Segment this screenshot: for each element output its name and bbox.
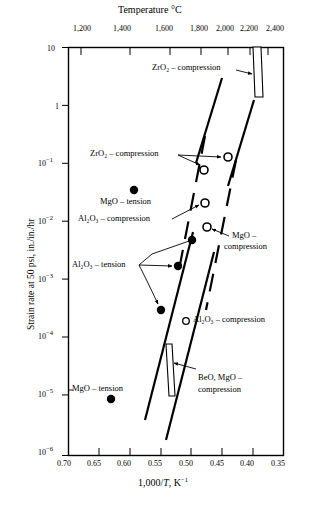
creep-strain-rate-chart: Temperature °C 1,200 1,400 1,600 1,800 2…	[0, 0, 313, 509]
data-point-mgo-tension-2	[107, 395, 115, 403]
data-point-al2o3-tension-3	[157, 306, 165, 314]
zro2-band-stroke-left	[196, 78, 222, 163]
annotation-beo-mgo-line1: BeO, MgO –	[198, 372, 242, 382]
annotation-al2o3-compression-legend: Al₂O₃ – compression	[193, 314, 265, 324]
annotation-mgo-compression-line2: compression	[224, 241, 267, 251]
legend-marker-al2o3-compression	[183, 318, 190, 325]
annotation-al2o3-compression-mid: Al₂O₃ – compression	[78, 213, 150, 223]
leader-al2o3-tension-1	[139, 265, 172, 266]
data-point-zro2-compression-1	[224, 153, 232, 161]
annotation-mgo-tension-mid: MgO – tension	[100, 196, 151, 206]
plot-svg	[0, 0, 313, 509]
leader-al2o3-compression	[172, 205, 199, 219]
annotation-zro2-compression-top: ZrO₂ – compression	[152, 62, 221, 72]
leader-zro2-compression-top	[236, 70, 252, 74]
data-point-al2o3-compression-1	[201, 199, 209, 207]
data-point-mgo-tension-1	[130, 186, 138, 194]
data-point-al2o3-compression-2	[203, 223, 211, 231]
data-point-al2o3-tension-2	[174, 262, 182, 270]
solid-band-right	[166, 252, 214, 440]
bottom-ticks	[69, 448, 284, 456]
annotation-zro2-compression-mid: ZrO₂ – compression	[90, 148, 159, 158]
top-ticks	[81, 48, 268, 56]
annotation-mgo-compression-line1: MgO –	[232, 230, 256, 240]
data-point-zro2-compression-2	[200, 166, 208, 174]
beo-mgo-compression-band	[166, 344, 175, 396]
leader-al2o3-tension-2	[139, 240, 192, 265]
zro2-compression-band	[253, 47, 263, 97]
leader-mgo-compression	[212, 229, 229, 236]
zro2-band-stroke-right	[228, 100, 254, 186]
annotation-beo-mgo-line2: compression	[198, 384, 241, 394]
annotation-mgo-tension-low: MgO – tension	[72, 383, 123, 393]
y-ticks	[62, 48, 69, 456]
annotation-al2o3-tension: Al₂O₃ – tension	[72, 259, 126, 269]
leader-al2o3-tension-3	[139, 265, 158, 304]
